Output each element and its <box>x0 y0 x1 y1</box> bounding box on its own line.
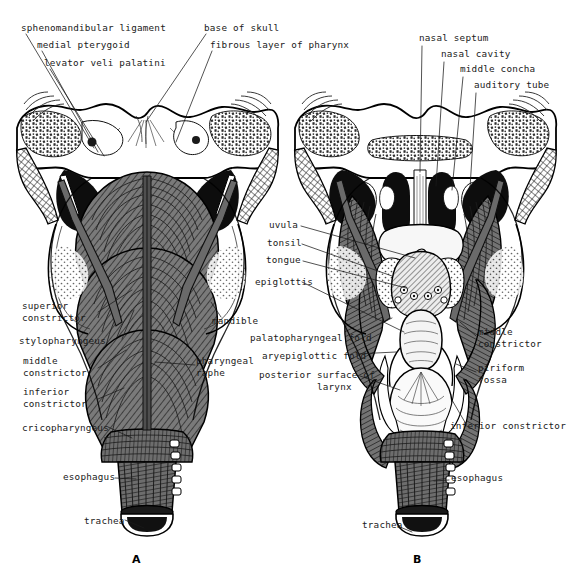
label-nasal-cavity: nasal cavity <box>441 48 511 60</box>
label-superior-constrictor: superior constrictor <box>22 300 86 323</box>
panel-letter-a: A <box>132 553 141 566</box>
label-cricopharyngeus: cricopharyngeus <box>22 422 109 434</box>
label-uvula: uvula <box>269 219 298 231</box>
label-middle-concha: middle concha <box>460 63 535 75</box>
label-auditory-tube: auditory tube <box>474 79 549 91</box>
label-esophagus-b: esophagus <box>451 472 503 484</box>
label-middle-constrictor-b: middle constrictor <box>478 326 542 349</box>
label-inferior-constrictor: inferior constrictor <box>23 386 87 409</box>
label-aryepiglottic-fold: aryepiglottic fold <box>262 350 366 362</box>
anatomical-figure-pharynx: sphenomandibular ligament medial pterygo… <box>0 0 570 583</box>
epiglottis-b <box>400 310 442 370</box>
esophagus-b-shape <box>395 462 450 512</box>
label-tonsil: tonsil <box>267 237 302 249</box>
label-trachea-a: trachea <box>84 515 125 527</box>
label-fibrous-layer-of-pharynx: fibrous layer of pharynx <box>210 39 349 51</box>
label-medial-pterygoid: medial pterygoid <box>37 39 130 51</box>
panel-letter-b: B <box>413 553 421 566</box>
label-pharyngeal-raphe: pharyngeal raphe <box>196 355 254 378</box>
label-posterior-surface-of-larynx: posterior surface of larynx <box>259 369 375 392</box>
middle-concha-left-b <box>380 186 395 210</box>
label-inferior-constrictor-b: inferior constrictor <box>450 420 566 432</box>
label-middle-constrictor: middle constrictor <box>23 355 87 378</box>
label-esophagus-a: esophagus <box>63 471 115 483</box>
label-epiglottis: epiglottis <box>255 276 313 288</box>
label-tongue: tongue <box>266 254 301 266</box>
tongue-b <box>392 252 451 319</box>
label-trachea-b: trachea <box>362 519 403 531</box>
label-sphenomandibular-ligament: sphenomandibular ligament <box>21 22 166 34</box>
foramen-right-a <box>192 136 200 144</box>
label-palatopharyngeal-fold: palatopharyngeal fold <box>250 332 372 344</box>
middle-concha-right-b <box>443 186 458 210</box>
label-base-of-skull: base of skull <box>204 22 279 34</box>
label-mandible: mandible <box>212 315 258 327</box>
label-levator-veli-palatini: levator veli palatini <box>44 57 166 69</box>
label-nasal-septum: nasal septum <box>419 32 489 44</box>
label-piriform-fossa: piriform fossa <box>478 362 524 385</box>
label-stylopharyngeus: stylopharyngeus <box>19 335 106 347</box>
